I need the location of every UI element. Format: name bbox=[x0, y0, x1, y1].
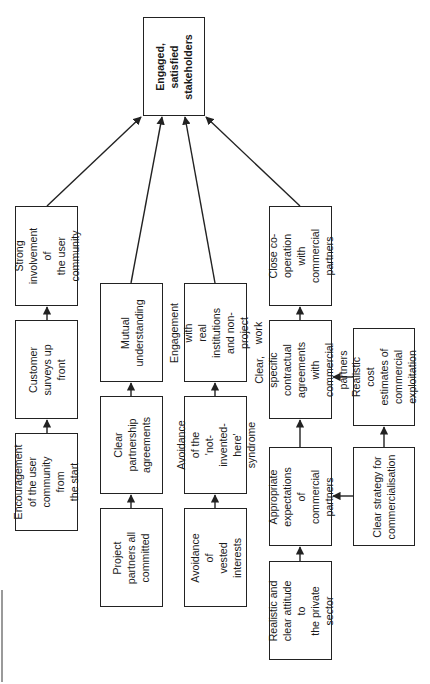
node-avoid-vested: Avoidance of vested interests bbox=[184, 508, 247, 607]
node-label: Appropriate expectations of commercial p… bbox=[266, 466, 336, 527]
node-engagement-real-institutions: Engagement with real institutions and no… bbox=[184, 283, 247, 382]
arrow-close_coop-to-goal bbox=[206, 117, 300, 206]
node-clear-partnership: Clear partnership agreements bbox=[100, 396, 163, 494]
node-label: Encouragement of the user community from… bbox=[12, 445, 82, 520]
node-appropriate-expectations: Appropriate expectations of commercial p… bbox=[269, 447, 332, 546]
node-clear-strategy: Clear strategy for commercialisation bbox=[353, 447, 415, 546]
node-label: Clear strategy for commercialisation bbox=[370, 454, 398, 539]
node-label: Strong involvement of the user community bbox=[12, 226, 82, 287]
node-encouragement: Encouragement of the user community from… bbox=[15, 433, 78, 531]
node-mutual-understanding: Mutual understanding bbox=[100, 283, 163, 382]
node-clear-specific-agreements: Clear, specific contractual agreements w… bbox=[269, 320, 332, 419]
node-label: Mutual understanding bbox=[118, 299, 146, 366]
node-realistic-cost: Realistic cost estimates of commercial e… bbox=[353, 328, 415, 426]
node-project-partners: Project partners all committed bbox=[100, 508, 163, 607]
page-edge-line bbox=[1, 590, 3, 682]
node-strong-involvement: Strong involvement of the user community bbox=[15, 206, 78, 306]
node-label: Engagement with real institutions and no… bbox=[167, 302, 265, 363]
node-label: Customer surveys up front bbox=[25, 344, 67, 395]
node-label: Realistic cost estimates of commercial e… bbox=[349, 347, 419, 407]
node-realistic-attitude: Realistic and clear attitude to the priv… bbox=[269, 561, 332, 660]
arrow-strong_involvement-to-goal bbox=[47, 117, 141, 206]
node-label: Close co- operation with commercial part… bbox=[266, 226, 336, 287]
node-label: Clear, specific contractual agreements w… bbox=[252, 339, 350, 400]
node-close-cooperation: Close co- operation with commercial part… bbox=[269, 206, 332, 306]
node-avoid-nih: Avoidance of the 'not-invented- here' sy… bbox=[184, 396, 247, 494]
node-label: Avoidance of the 'not-invented- here' sy… bbox=[174, 415, 258, 476]
goal-box-engaged-stakeholders: Engaged, satisfied stakeholders bbox=[143, 17, 205, 116]
node-label: Clear partnership agreements bbox=[110, 417, 152, 473]
arrow-engagement_real-to-goal bbox=[185, 117, 215, 283]
goal-label: Engaged, satisfied stakeholders bbox=[153, 34, 195, 99]
node-label: Project partners all committed bbox=[111, 531, 153, 583]
node-label: Realistic and clear attitude to the priv… bbox=[266, 580, 336, 641]
node-customer-surveys: Customer surveys up front bbox=[15, 320, 78, 419]
arrow-mutual_understanding-to-goal bbox=[131, 117, 162, 283]
node-label: Avoidance of vested interests bbox=[188, 527, 244, 588]
